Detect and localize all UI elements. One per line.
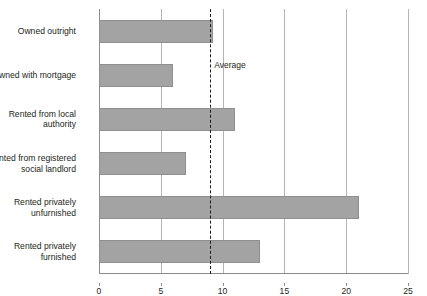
category-label: Owned outright — [0, 26, 76, 37]
bar[interactable] — [99, 108, 235, 131]
bar[interactable] — [99, 152, 186, 175]
x-tick-label: 0 — [97, 286, 102, 296]
gridline-5 — [161, 9, 162, 274]
bar-row — [99, 108, 408, 131]
x-tick-label: 25 — [403, 286, 413, 296]
gridline-25 — [408, 9, 409, 274]
x-tick-label: 20 — [341, 286, 351, 296]
category-label: Rented from local authority — [0, 109, 76, 130]
bar[interactable] — [99, 240, 260, 263]
bar-row — [99, 64, 408, 87]
bar-row — [99, 20, 408, 43]
x-tick-label: 5 — [158, 286, 163, 296]
category-label: Rented from registered social landlord — [0, 153, 76, 174]
bar[interactable] — [99, 196, 359, 219]
bar[interactable] — [99, 20, 213, 43]
average-line — [210, 9, 211, 274]
bar[interactable] — [99, 64, 173, 87]
category-label: Rented privately furnished — [0, 241, 76, 262]
x-axis-line — [99, 273, 408, 274]
bar-row — [99, 196, 408, 219]
category-label: Rented privately unfurnished — [0, 197, 76, 218]
bar-row — [99, 240, 408, 263]
gridline-20 — [346, 9, 347, 274]
gridline-15 — [284, 9, 285, 274]
plot-area: 0510152025Owned outrightOwned with mortg… — [99, 9, 408, 274]
bar-row — [99, 152, 408, 175]
gridline-0 — [99, 9, 100, 274]
gridline-10 — [223, 9, 224, 274]
x-tick-label: 10 — [218, 286, 228, 296]
category-label: Owned with mortgage — [0, 70, 76, 81]
x-tick-label: 15 — [280, 286, 290, 296]
average-label: Average — [214, 60, 246, 70]
